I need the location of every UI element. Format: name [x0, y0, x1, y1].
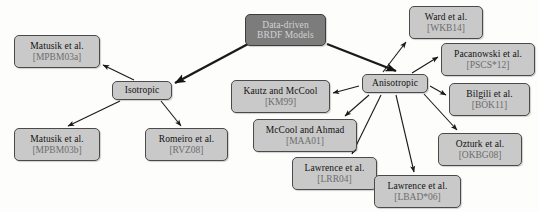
node-citation: [LRR04]	[317, 174, 351, 184]
node-label: Data-driven	[262, 20, 308, 30]
node-label-line2: BRDF Models	[257, 30, 314, 40]
node-citation: [MPBM03a]	[33, 52, 82, 62]
node-label: Pacanowski et al.	[454, 49, 522, 59]
node-citation: [OKBG08]	[459, 150, 502, 160]
node-bilgili[interactable]: Bilgili et al.[BÖK11]	[449, 83, 530, 116]
edge-anisotropic-to-mccool	[345, 95, 369, 116]
edge-anisotropic-to-kautz	[333, 86, 359, 93]
node-matusik-b[interactable]: Matusik et al.[MPBM03b]	[14, 128, 100, 161]
node-isotropic[interactable]: Isotropic	[112, 81, 172, 100]
node-label: Matusik et al.	[30, 134, 83, 144]
edge-root-to-isotropic	[175, 44, 248, 83]
edge-isotropic-to-matusik-b	[68, 101, 120, 126]
edge-isotropic-to-romeiro	[161, 101, 181, 126]
node-ozturk[interactable]: Ozturk et al.[OKBG08]	[438, 133, 522, 166]
node-kautz[interactable]: Kautz and McCool[KM99]	[231, 80, 330, 113]
node-label: Ward et al.	[425, 12, 467, 22]
node-root[interactable]: Data-drivenBRDF Models	[245, 14, 326, 46]
node-citation: [PSCS*12]	[467, 60, 510, 70]
node-citation: [BÖK11]	[472, 100, 508, 110]
node-ward[interactable]: Ward et al.[WKB14]	[409, 6, 483, 39]
node-lawrence-lbad06[interactable]: Lawrence et al.[LBAD*06]	[374, 175, 461, 208]
node-label: Matusik et al.	[30, 41, 83, 51]
node-label: Lawrence et al.	[388, 181, 448, 191]
node-anisotropic[interactable]: Anisotropic	[362, 74, 428, 93]
node-citation: [WKB14]	[427, 23, 465, 33]
edge-isotropic-to-matusik-a	[103, 65, 134, 80]
edge-anisotropic-to-bilgili	[430, 86, 446, 95]
node-lawrence-lrr04[interactable]: Lawrence et al.[LRR04]	[292, 157, 377, 190]
node-citation: [KM99]	[265, 97, 296, 107]
node-label: Bilgili et al.	[466, 89, 513, 99]
node-pacanowski[interactable]: Pacanowski et al.[PSCS*12]	[441, 43, 535, 76]
node-label: Romeiro et al.	[159, 134, 214, 144]
edge-root-to-anisotropic	[327, 44, 396, 71]
node-citation: [MPBM03b]	[32, 145, 81, 155]
node-label: Lawrence et al.	[305, 163, 365, 173]
node-romeiro[interactable]: Romeiro et al.[RVZ08]	[145, 128, 228, 161]
node-citation: [RVZ08]	[169, 145, 203, 155]
node-label: Isotropic	[125, 85, 160, 95]
node-citation: [LBAD*06]	[394, 192, 440, 202]
node-label: Ozturk et al.	[456, 139, 505, 149]
node-matusik-a[interactable]: Matusik et al.[MPBM03a]	[14, 35, 100, 68]
edge-anisotropic-to-lawrence-lbad06	[396, 95, 414, 172]
diagram-canvas: Data-drivenBRDF ModelsIsotropicAnisotrop…	[0, 0, 539, 212]
node-label: Kautz and McCool	[244, 86, 318, 96]
node-citation: [MAA01]	[286, 136, 324, 146]
edge-anisotropic-to-pacanowski	[412, 57, 438, 73]
node-label: McCool and Ahmad	[266, 125, 345, 135]
edge-anisotropic-to-ward	[383, 42, 406, 72]
node-mccool[interactable]: McCool and Ahmad[MAA01]	[253, 119, 357, 152]
node-label: Anisotropic	[372, 78, 418, 88]
